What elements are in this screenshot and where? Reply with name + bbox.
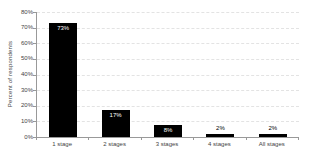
x-tick-label: All stages [246, 141, 298, 147]
plot-area: 73%17%8%2%2% [36, 12, 299, 138]
bar-value-label: 17% [102, 112, 130, 119]
x-tick-label: 1 stage [36, 141, 88, 147]
bar-value-label: 73% [49, 25, 77, 32]
x-tick-label: 4 stages [193, 141, 245, 147]
bar [206, 134, 234, 137]
y-tick-label: 50% [0, 55, 33, 62]
x-tick-label: 2 stages [88, 141, 140, 147]
y-tick-label: 60% [0, 40, 33, 47]
x-tick-mark [298, 137, 299, 140]
bar-value-label: 8% [154, 127, 182, 134]
bar-value-label: 2% [206, 125, 234, 132]
bar-chart: Percent of respondents 0%10%20%30%40%50%… [0, 0, 314, 160]
bar [259, 134, 287, 137]
x-tick-label: 3 stages [141, 141, 193, 147]
x-tick-mark [193, 137, 194, 140]
y-tick-label: 70% [0, 24, 33, 31]
x-tick-mark [36, 137, 37, 140]
y-tick-label: 80% [0, 9, 33, 16]
x-tick-mark [246, 137, 247, 140]
gridline [37, 12, 299, 13]
y-tick-label: 20% [0, 102, 33, 109]
y-tick-label: 10% [0, 118, 33, 125]
bar-value-label: 2% [259, 125, 287, 132]
x-tick-mark [88, 137, 89, 140]
bar [49, 23, 77, 137]
x-tick-mark [141, 137, 142, 140]
y-tick-label: 30% [0, 87, 33, 94]
y-tick-label: 0% [0, 134, 33, 141]
y-tick-label: 40% [0, 71, 33, 78]
